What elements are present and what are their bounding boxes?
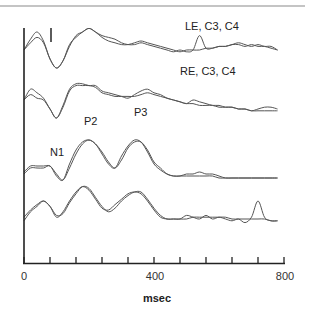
x-axis-ticks (24, 257, 284, 263)
x-tick-label-800: 800 (276, 270, 294, 282)
waveform-line (24, 187, 278, 223)
waveform-line (24, 28, 278, 68)
x-tick-label-400: 400 (146, 270, 164, 282)
x-axis-label: msec (143, 292, 171, 304)
trace-label-re: RE, C3, C4 (180, 65, 236, 77)
waveform-traces (24, 28, 278, 222)
peak-label-p3: P3 (134, 106, 147, 118)
waveform-line (24, 186, 278, 221)
erp-chart (0, 0, 319, 315)
waveform-line (24, 85, 278, 118)
x-tick-label-0: 0 (21, 270, 27, 282)
trace-label-le: LE, C3, C4 (185, 20, 239, 32)
peak-label-n1: N1 (50, 146, 64, 158)
peak-label-p2: P2 (84, 115, 97, 127)
waveform-line (24, 83, 278, 118)
